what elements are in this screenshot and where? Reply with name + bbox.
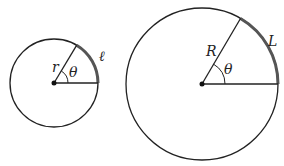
large-angle-label: θ xyxy=(224,61,233,77)
large-arc-label: L xyxy=(267,33,277,49)
small-angle-label: θ xyxy=(69,64,78,80)
small-circle-figure: r θ ℓ xyxy=(10,39,105,127)
small-arc-label: ℓ xyxy=(99,48,105,64)
small-angle-arc xyxy=(61,71,68,83)
small-arc xyxy=(77,45,98,83)
large-center-dot xyxy=(200,82,205,87)
small-radius-label: r xyxy=(52,59,60,75)
large-arc xyxy=(241,19,279,85)
arc-length-diagram: r θ ℓ R θ L xyxy=(0,0,284,166)
large-circle-figure: R θ L xyxy=(126,8,278,160)
small-center-dot xyxy=(52,81,57,86)
large-radius-label: R xyxy=(205,43,217,59)
